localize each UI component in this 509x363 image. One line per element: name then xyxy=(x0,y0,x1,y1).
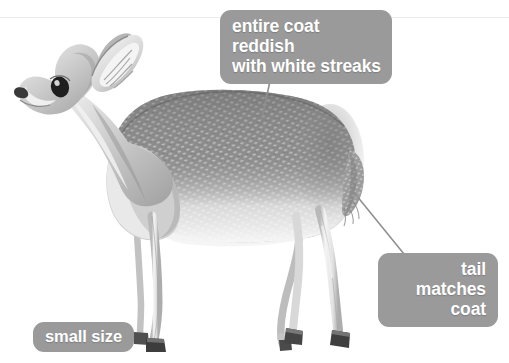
tail-callout-line1: tail matches xyxy=(389,259,486,299)
tail-callout[interactable]: tail matches coat xyxy=(378,253,498,327)
size-callout-line1: small size xyxy=(45,327,122,346)
ears xyxy=(91,33,143,92)
hind-leg-near xyxy=(320,210,350,348)
annotated-illustration-figure: entire coat reddish with white streaks t… xyxy=(0,0,509,363)
size-callout[interactable]: small size xyxy=(33,322,134,352)
coat-callout-line2: with white streaks xyxy=(232,56,381,76)
coat-callout[interactable]: entire coat reddish with white streaks xyxy=(220,10,392,84)
coat-callout-line1: entire coat reddish xyxy=(232,16,381,56)
tail-callout-line2: coat xyxy=(389,299,486,319)
